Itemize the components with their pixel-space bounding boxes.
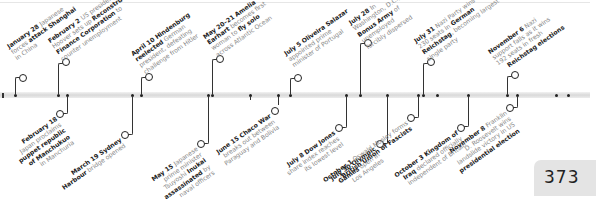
- event-marker-circle: [335, 124, 343, 132]
- connector-line: [67, 96, 68, 110]
- connector-line: [423, 66, 424, 94]
- timeline-tick: [436, 94, 439, 97]
- event-marker-circle: [271, 107, 279, 115]
- event-label-feb-18: February 18 Japan proclaims puppet repub…: [9, 115, 75, 176]
- event-label-apr-10: April 10 Hindenburg reelected German pre…: [129, 11, 203, 75]
- event-label-jul-5: July 5 Oliveira Salazar appointed prime …: [283, 7, 358, 68]
- connector-line: [250, 96, 251, 100]
- connector-line: [58, 66, 59, 94]
- connector-line: [15, 80, 16, 94]
- connector-line: [507, 79, 508, 94]
- event-marker-circle: [19, 74, 27, 82]
- axis-start-mark: [2, 93, 4, 98]
- timeline-tick: [567, 94, 570, 97]
- connector-line: [208, 96, 209, 140]
- connector-line: [290, 81, 291, 94]
- event-label-jun-15: June 15 Chaco War breaks out between Par…: [215, 112, 281, 167]
- event-label-jul-28: July 28 In Washington, D.C., Bonus Army …: [341, 0, 414, 55]
- connector-line: [346, 96, 347, 124]
- connector-line: [468, 96, 469, 123]
- event-marker-circle: [407, 114, 415, 122]
- connector-line: [141, 80, 142, 94]
- event-label-may-15: May 15 Japanese prime minister Tsuyoshi …: [150, 145, 216, 206]
- event-marker-circle: [294, 74, 302, 82]
- connector-line: [278, 96, 279, 105]
- event-marker-circle: [506, 104, 514, 112]
- page-top-rule: [0, 2, 590, 3]
- event-marker-circle: [121, 131, 129, 139]
- page-number: 373: [534, 160, 596, 196]
- timeline-tick: [277, 94, 280, 97]
- connector-line: [517, 96, 518, 104]
- event-label-may-20: May 20–21 Amelia Earhart becomes first w…: [201, 0, 275, 58]
- connector-line: [212, 62, 213, 94]
- connector-line: [132, 96, 133, 131]
- event-marker-circle: [197, 140, 205, 148]
- event-marker-circle: [511, 71, 519, 79]
- timeline-axis: [0, 92, 590, 98]
- event-marker-circle: [457, 124, 465, 132]
- connector-line: [418, 96, 419, 114]
- event-label-nov-6: November 6 Nazi support falls as it wins…: [486, 6, 565, 73]
- timeline-tick: [555, 94, 558, 97]
- event-marker-circle: [56, 110, 64, 118]
- event-label-nov-8: November 8 Franklin D. Roosevelt wins la…: [445, 109, 520, 174]
